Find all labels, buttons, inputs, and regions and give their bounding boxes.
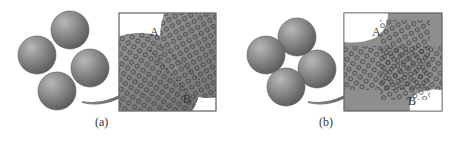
panel-caption-b: (b) [319,115,333,130]
point-label-b: B [408,94,416,109]
particle [267,68,305,106]
particle [71,49,109,87]
pore [286,55,298,67]
particle [38,72,76,110]
particle [51,11,89,49]
point-label-a: A [150,25,159,40]
particle [247,36,285,74]
point-label-a: A [372,25,381,40]
panel-b-particles [247,18,336,106]
point-label-b: B [183,92,191,107]
particle [18,36,56,74]
sintering-diagram [0,0,456,141]
panel-a-particles [18,11,109,110]
panel-b-inset [344,13,442,111]
panel-caption-a: (a) [95,115,108,130]
